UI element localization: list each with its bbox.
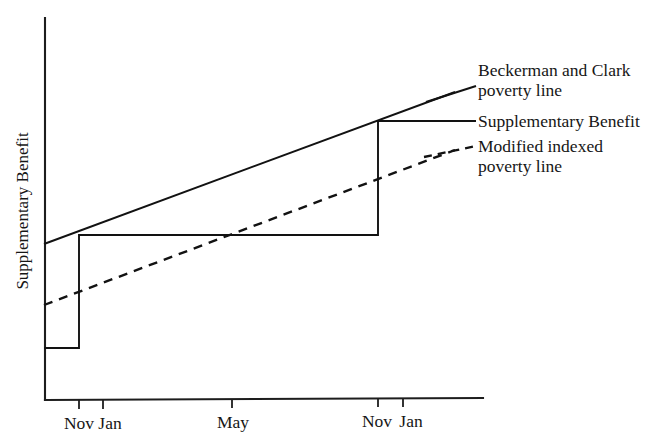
- series-beckerman-and-clark-poverty-line: [44, 92, 455, 244]
- legend-label-beckerman-line1: Beckerman and Clark: [478, 60, 631, 80]
- series-modified-indexed-poverty-line: [44, 150, 455, 305]
- x-tick-label-nov-2: Nov: [362, 411, 392, 431]
- legend-item-modified-indexed: Modified indexed poverty line: [424, 136, 603, 176]
- series-supplementary-benefit: [44, 121, 455, 348]
- x-tick-label-jan-2: Jan: [399, 411, 423, 431]
- legend-label-beckerman-line2: poverty line: [478, 80, 562, 100]
- chart-legend: Beckerman and Clark poverty line Supplem…: [424, 60, 640, 176]
- legend-label-supplementary-benefit: Supplementary Benefit: [478, 111, 640, 131]
- legend-item-beckerman-and-clark: Beckerman and Clark poverty line: [426, 60, 631, 102]
- x-axis-tick-labels: Nov Jan May Nov Jan: [64, 411, 423, 433]
- chart-series: [44, 92, 455, 348]
- x-axis-line: [45, 398, 483, 400]
- poverty-line-chart: Nov Jan May Nov Jan Supplementary Benefi…: [0, 0, 654, 441]
- legend-label-modified-line1: Modified indexed: [478, 136, 603, 156]
- chart-axes: [45, 18, 483, 400]
- legend-label-modified-line2: poverty line: [478, 156, 562, 176]
- x-tick-label-jan-1: Jan: [98, 413, 122, 433]
- x-tick-label-may: May: [217, 412, 249, 432]
- x-tick-label-nov-1: Nov: [64, 413, 94, 433]
- legend-item-supplementary-benefit: Supplementary Benefit: [424, 111, 640, 131]
- legend-swatch-solid-beckerman: [426, 86, 476, 102]
- y-axis-title: Supplementary Benefit: [13, 132, 32, 289]
